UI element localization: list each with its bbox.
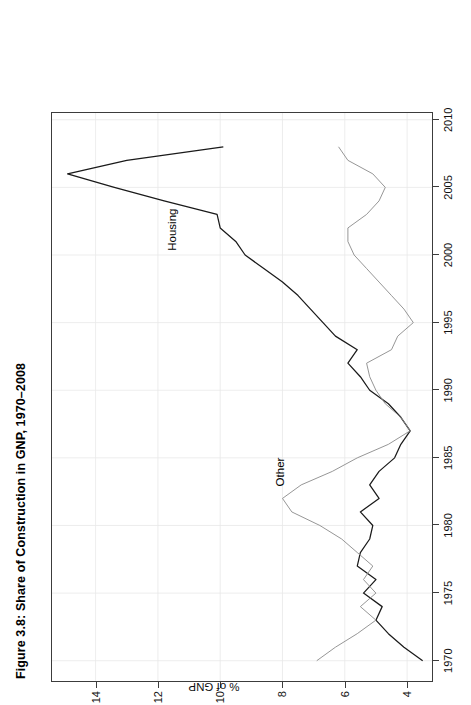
y-tick xyxy=(345,682,346,688)
housing-series-label: Housing xyxy=(166,209,178,251)
x-tick-label: 2010 xyxy=(442,108,454,132)
x-axis: 197019751980198519901995200020052010 xyxy=(433,112,471,682)
series-line-other xyxy=(282,147,413,661)
x-tick-label: 1995 xyxy=(442,310,454,334)
x-tick-label: 1970 xyxy=(442,648,454,672)
y-tick-label: 14 xyxy=(90,691,102,703)
plot-area xyxy=(51,112,433,682)
y-tick xyxy=(96,682,97,688)
series-line-housing xyxy=(68,147,423,661)
y-tick xyxy=(407,682,408,688)
x-tick xyxy=(433,592,439,593)
y-tick-label: 4 xyxy=(401,691,413,697)
x-tick xyxy=(433,322,439,323)
page-title: Figure 3.8: Share of Construction in GNP… xyxy=(14,363,28,679)
y-tick xyxy=(282,682,283,688)
x-tick-label: 2000 xyxy=(442,243,454,267)
x-tick-label: 2005 xyxy=(442,175,454,199)
x-tick xyxy=(433,524,439,525)
x-tick xyxy=(433,660,439,661)
figure-page: Figure 3.8: Share of Construction in GNP… xyxy=(0,0,471,705)
x-tick-label: 1985 xyxy=(442,446,454,470)
y-axis-title: % of GNP xyxy=(154,681,274,693)
chart-svg xyxy=(52,113,432,681)
x-tick xyxy=(433,119,439,120)
x-tick xyxy=(433,457,439,458)
x-tick-label: 1975 xyxy=(442,581,454,605)
x-tick-label: 1990 xyxy=(442,378,454,402)
x-tick xyxy=(433,254,439,255)
rotated-figure-container: Figure 3.8: Share of Construction in GNP… xyxy=(0,0,471,705)
y-tick-label: 6 xyxy=(339,691,351,697)
other-series-label: Other xyxy=(274,458,286,487)
x-tick xyxy=(433,389,439,390)
y-tick-label: 8 xyxy=(276,691,288,697)
x-tick xyxy=(433,186,439,187)
x-tick-label: 1980 xyxy=(442,513,454,537)
plot-inner xyxy=(52,113,432,681)
